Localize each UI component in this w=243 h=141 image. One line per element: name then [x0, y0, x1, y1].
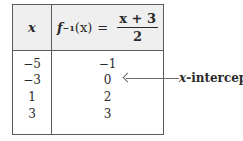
table-row: −5 −1	[13, 57, 163, 74]
equals-sign: =	[97, 20, 108, 35]
table-row: −3 0	[13, 73, 163, 90]
cell-y: 3	[52, 107, 163, 121]
header-x: x	[13, 5, 51, 50]
inverse-function-table: x f−1(x) = x + 3 2 −5 −1 −3 0 1 2 3 3	[12, 4, 164, 135]
cell-x: 1	[13, 90, 51, 104]
label-text: -intercept	[186, 71, 243, 85]
cell-x: 3	[13, 107, 51, 121]
function-argument: (x)	[75, 20, 92, 35]
cell-x: −5	[13, 57, 51, 71]
cell-y: 2	[52, 90, 163, 104]
fraction: x + 3 2	[117, 11, 158, 44]
x-intercept-label: x-intercept	[179, 71, 243, 85]
cell-y: −1	[52, 57, 163, 71]
cell-x: −3	[13, 73, 51, 87]
annotation-arrow-line	[126, 78, 179, 79]
table-row: 3 3	[13, 107, 163, 124]
header-inverse-function: f−1(x) = x + 3 2	[52, 5, 163, 50]
inverse-superscript: −1	[63, 23, 75, 33]
fraction-numerator: x + 3	[117, 11, 158, 28]
fraction-denominator: 2	[133, 28, 142, 44]
cell-y: 0	[52, 73, 163, 87]
table-row: 1 2	[13, 90, 163, 107]
